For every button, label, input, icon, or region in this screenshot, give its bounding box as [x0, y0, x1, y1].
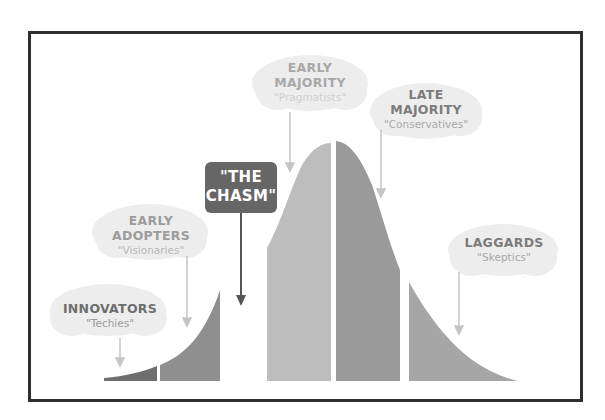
chasm-box: "THE CHASM": [205, 162, 277, 213]
segment-early-adopters: [160, 290, 220, 381]
segment-innovators: [104, 366, 157, 381]
segment-laggards: [409, 282, 518, 381]
segment-late-majority: [336, 141, 400, 381]
label-early-adopters: EARLY ADOPTERS "Visionaries": [96, 213, 206, 258]
chasm-line2: CHASM": [205, 187, 277, 206]
chasm-arrow: [236, 213, 246, 306]
label-late-majority: LATE MAJORITY "Conservatives": [370, 87, 482, 132]
label-laggards: LAGGARDS "Skeptics": [450, 235, 558, 265]
label-early-majority: EARLY MAJORITY "Pragmatists": [255, 60, 365, 105]
chasm-line1: "THE: [205, 168, 277, 187]
label-innovators: INNOVATORS "Techies": [56, 301, 164, 331]
